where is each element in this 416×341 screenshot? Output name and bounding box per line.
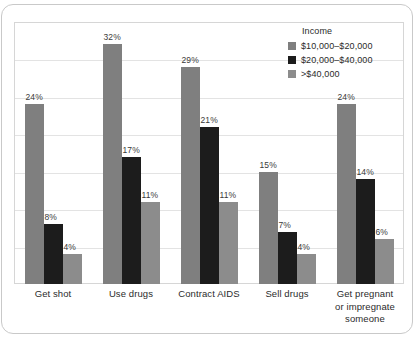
bar: [356, 179, 375, 284]
legend-swatch-icon: [288, 70, 296, 78]
bar-value-label: 17%: [123, 145, 140, 155]
x-axis-label: Use drugs: [92, 288, 170, 301]
legend-swatch-icon: [288, 56, 296, 64]
bar-value-label: 6%: [376, 227, 389, 237]
bar: [141, 202, 160, 284]
bar: [375, 239, 394, 284]
bar-group: 24%8%4%: [14, 22, 92, 284]
x-axis-label: Sell drugs: [248, 288, 326, 301]
bar: [200, 127, 219, 284]
legend-title: Income: [302, 26, 408, 36]
bar-value-label: 15%: [260, 160, 277, 170]
legend-entry-label: $10,000–$20,000: [301, 41, 373, 51]
bar-group: 29%21%11%: [170, 22, 248, 284]
x-axis-label: Get shot: [14, 288, 92, 301]
bar: [219, 202, 238, 284]
legend-entries: $10,000–$20,000$20,000–$40,000>$40,000: [288, 39, 408, 80]
legend-swatch-icon: [288, 42, 296, 50]
x-axis-label: Contract AIDS: [170, 288, 248, 301]
x-axis-category-labels: Get shotUse drugsContract AIDSSell drugs…: [14, 288, 404, 336]
bar-value-label: 8%: [45, 212, 58, 222]
bar: [337, 104, 356, 284]
legend-entry-label: >$40,000: [301, 69, 340, 79]
bar-group: 32%17%11%: [92, 22, 170, 284]
bar-value-label: 24%: [26, 92, 43, 102]
bar: [103, 44, 122, 284]
bar: [259, 172, 278, 284]
bar: [181, 67, 200, 284]
legend-entry: $20,000–$40,000: [288, 53, 408, 66]
bar: [122, 157, 141, 284]
x-axis-label: Get pregnantor impregnatesomeone: [326, 288, 404, 326]
legend-entry: >$40,000: [288, 67, 408, 80]
bar-value-label: 11%: [220, 190, 237, 200]
bar-value-label: 32%: [104, 32, 121, 42]
legend-entry: $10,000–$20,000: [288, 39, 408, 52]
bar-value-label: 4%: [64, 242, 77, 252]
bar-value-label: 29%: [182, 55, 199, 65]
bar-chart-figure: 24%8%4%32%17%11%29%21%11%15%7%4%24%14%6%…: [0, 0, 416, 341]
bar-value-label: 21%: [201, 115, 218, 125]
legend-entry-label: $20,000–$40,000: [301, 55, 373, 65]
chart-legend: Income $10,000–$20,000$20,000–$40,000>$4…: [288, 26, 408, 81]
bar-value-label: 7%: [279, 220, 292, 230]
bar-value-label: 24%: [338, 92, 355, 102]
bar-value-label: 4%: [298, 242, 311, 252]
bar: [297, 254, 316, 284]
bar-value-label: 11%: [142, 190, 159, 200]
bar: [63, 254, 82, 284]
bar: [25, 104, 44, 284]
bar-value-label: 14%: [357, 167, 374, 177]
bar: [44, 224, 63, 284]
bar: [278, 232, 297, 284]
